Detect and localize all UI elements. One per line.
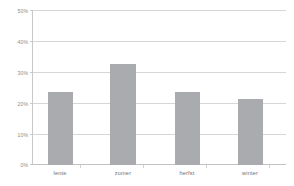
x-tick-3 bbox=[206, 165, 207, 168]
y-tick-label-10: 10% bbox=[2, 132, 28, 138]
y-tick-mark-50 bbox=[30, 10, 32, 11]
x-tick-4 bbox=[269, 165, 270, 168]
x-tick-2 bbox=[143, 165, 144, 168]
y-tick-mark-40 bbox=[30, 41, 32, 42]
bar-herfst bbox=[175, 92, 200, 165]
y-tick-mark-0 bbox=[30, 164, 32, 165]
y-tick-label-20: 20% bbox=[2, 101, 28, 107]
gridline-50 bbox=[32, 10, 286, 11]
y-tick-label-30: 30% bbox=[2, 70, 28, 76]
y-tick-mark-30 bbox=[30, 72, 32, 73]
y-tick-mark-20 bbox=[30, 103, 32, 104]
x-label-zomer: zomer bbox=[115, 170, 131, 176]
y-axis-line bbox=[32, 10, 33, 165]
x-label-winter: winter bbox=[242, 170, 258, 176]
bar-chart: 50% 40% 30% 20% 10% 0% lente zomer herfs… bbox=[0, 0, 294, 186]
x-label-herfst: herfst bbox=[180, 170, 195, 176]
plot-area bbox=[32, 10, 286, 165]
y-tick-label-50: 50% bbox=[2, 8, 28, 14]
x-tick-1 bbox=[80, 165, 81, 168]
bar-zomer bbox=[110, 64, 136, 165]
y-tick-label-0: 0% bbox=[2, 162, 28, 168]
gridline-40 bbox=[32, 41, 286, 42]
x-label-lente: lente bbox=[54, 170, 67, 176]
y-tick-mark-10 bbox=[30, 134, 32, 135]
bar-winter bbox=[238, 99, 263, 165]
bar-lente bbox=[48, 92, 73, 165]
y-tick-label-40: 40% bbox=[2, 39, 28, 45]
gridline-30 bbox=[32, 72, 286, 73]
